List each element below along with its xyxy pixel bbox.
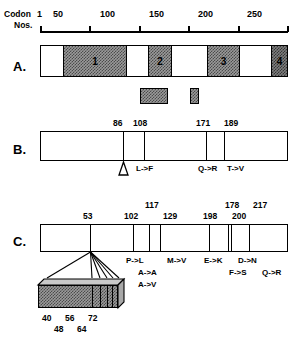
expansion-tick-40	[92, 285, 93, 308]
expansion-label-40: 40	[42, 314, 51, 323]
expansion-tick-72	[117, 285, 118, 308]
expansion-tick-48	[100, 285, 101, 308]
expansion-box-side-face	[118, 279, 124, 308]
expansion-label-48: 48	[54, 325, 63, 334]
expansion-tick-56	[107, 285, 108, 308]
expansion-label-56: 56	[65, 314, 74, 323]
protein-mutation-figure: Codon Nos. 1 50 100 150 200 250 A. 1 2 3	[0, 0, 303, 341]
expansion-label-72: 72	[88, 314, 97, 323]
expansion-fan-line-64	[91, 252, 114, 278]
expansion-label-64: 64	[77, 325, 86, 334]
expansion-tick-64	[112, 285, 113, 308]
expansion-fan-line-outer	[47, 252, 91, 278]
expansion-box-front-face	[38, 285, 118, 308]
